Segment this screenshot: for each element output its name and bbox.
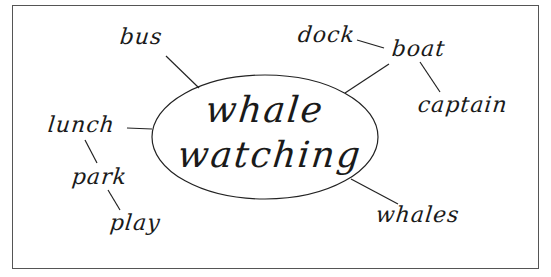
- connector-lunch-center: [127, 128, 152, 129]
- connector-whales-center: [351, 179, 398, 204]
- node-boat: boat: [391, 38, 447, 60]
- connector-dock-boat: [357, 40, 384, 48]
- connector-boat-center: [345, 64, 389, 93]
- node-lunch: lunch: [47, 114, 116, 136]
- node-captain: captain: [417, 94, 509, 116]
- connector-boat-captain: [420, 62, 440, 92]
- connector-park-play: [108, 190, 120, 210]
- node-bus: bus: [119, 26, 164, 48]
- node-play: play: [109, 212, 162, 234]
- node-dock: dock: [297, 24, 356, 46]
- connector-lunch-park: [85, 140, 97, 163]
- node-whales: whales: [375, 204, 461, 226]
- node-park: park: [71, 166, 128, 188]
- center-topic-line1: whale: [203, 92, 327, 128]
- connector-bus-center: [166, 56, 199, 88]
- center-topic-line2: watching: [176, 137, 358, 173]
